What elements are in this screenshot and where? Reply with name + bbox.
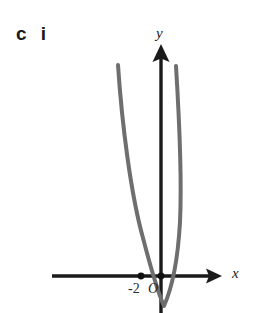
point-marker-origin (158, 273, 165, 280)
x-axis-label: x (231, 265, 239, 281)
tick-label-minus2: -2 (128, 281, 140, 296)
origin-label: O (148, 281, 158, 296)
figure-container: c i y x -2 O (0, 0, 256, 313)
coordinate-graph: y x -2 O (0, 0, 256, 313)
y-axis-label: y (154, 25, 163, 41)
parabola-curve (118, 65, 181, 306)
point-marker-root-minus2 (138, 273, 145, 280)
